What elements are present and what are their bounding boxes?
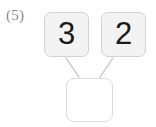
connector-line-right	[100, 58, 113, 77]
connector-line-left	[66, 58, 79, 77]
addend-box-right[interactable]: 2	[101, 12, 146, 57]
number-bond-problem: (5) 3 2	[0, 0, 156, 127]
addend-box-left[interactable]: 3	[44, 12, 89, 57]
sum-answer-box[interactable]	[66, 78, 113, 122]
sum-answer-value	[67, 79, 112, 121]
addend-value-right: 2	[115, 18, 132, 49]
addend-value-left: 3	[58, 18, 75, 49]
